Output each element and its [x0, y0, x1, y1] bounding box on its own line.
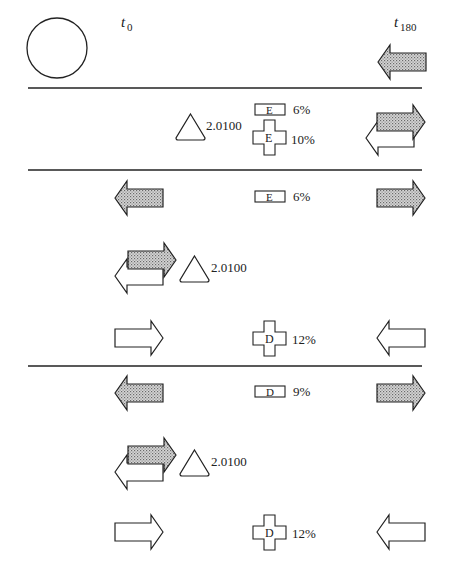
- triangle-value: 2.0100: [211, 454, 247, 469]
- grey-left-arrow-icon: [115, 376, 163, 410]
- triangle-icon: [180, 450, 209, 476]
- t0-subscript: 0: [127, 21, 133, 33]
- rect-letter: D: [266, 386, 274, 398]
- t180-text: t: [394, 14, 399, 30]
- white-left-arrow-icon: [377, 515, 425, 549]
- grey-left-arrow-icon: [115, 181, 163, 215]
- t180-subscript: 180: [400, 21, 417, 33]
- triangle-icon: [180, 256, 209, 282]
- t180-label: t 180: [394, 14, 417, 33]
- t0-label: t 0: [121, 14, 133, 33]
- grey-right-arrow-icon: [377, 376, 425, 410]
- cross-letter: D: [265, 526, 274, 540]
- diagram-canvas: t 0 t 180 2.0100 E 6% E 10% E 6% 2.0100 …: [0, 0, 455, 585]
- rect-percent: 9%: [293, 384, 311, 399]
- white-right-arrow-icon: [115, 321, 163, 355]
- rect-letter: E: [266, 104, 273, 116]
- cross-letter: D: [265, 332, 274, 346]
- cross-percent: 12%: [292, 332, 316, 347]
- white-left-arrow-icon: [377, 321, 425, 355]
- cross-percent: 10%: [291, 132, 315, 147]
- rect-percent: 6%: [293, 102, 311, 117]
- grey-right-arrow-icon: [377, 181, 425, 215]
- t0-text: t: [121, 14, 126, 30]
- cross-percent: 12%: [292, 526, 316, 541]
- rect-letter: E: [266, 191, 273, 203]
- grey-left-arrow-icon: [378, 45, 426, 79]
- rect-percent: 6%: [293, 189, 311, 204]
- cross-letter: E: [265, 131, 272, 145]
- triangle-icon: [176, 114, 205, 140]
- triangle-value: 2.0100: [206, 118, 242, 133]
- start-circle-icon: [27, 18, 87, 78]
- white-right-arrow-icon: [115, 515, 163, 549]
- triangle-value: 2.0100: [211, 260, 247, 275]
